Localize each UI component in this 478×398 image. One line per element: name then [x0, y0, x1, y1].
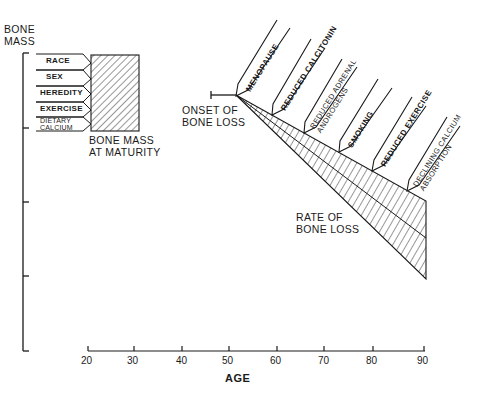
rate-label-line1: RATE OF — [296, 211, 359, 223]
factor-dietary: DIETARY — [40, 117, 73, 124]
x-tick-50: 50 — [222, 355, 233, 366]
x-tick-80: 80 — [366, 355, 377, 366]
bone-mass-at-maturity-box — [91, 55, 139, 131]
rate-of-bone-loss-label: RATE OF BONE LOSS — [296, 211, 359, 235]
x-tick-70: 70 — [318, 355, 329, 366]
rate-label-line2: BONE LOSS — [296, 223, 359, 235]
onset-label-line2: BONE LOSS — [182, 116, 245, 128]
maturity-label-line1: BONE MASS — [89, 134, 161, 146]
factor-sex: SEX — [46, 72, 63, 81]
factor-heredity: HEREDITY — [40, 88, 83, 97]
x-tick-90: 90 — [417, 355, 428, 366]
factor-dietary-calcium: DIETARY CALCIUM — [40, 117, 73, 131]
x-axis — [88, 346, 425, 351]
onset-label-line1: ONSET OF — [182, 104, 245, 116]
x-tick-20: 20 — [81, 355, 92, 366]
x-tick-30: 30 — [127, 355, 138, 366]
x-axis-label: AGE — [225, 372, 250, 384]
factor-race: RACE — [46, 56, 70, 65]
factor-calcium: CALCIUM — [40, 124, 73, 131]
y-axis-label-line1: BONE — [4, 23, 35, 35]
x-tick-40: 40 — [176, 355, 187, 366]
onset-of-bone-loss-label: ONSET OF BONE LOSS — [182, 104, 245, 128]
factor-exercise: EXERCISE — [40, 104, 83, 113]
x-tick-60: 60 — [270, 355, 281, 366]
diagram-graphics — [0, 0, 478, 398]
y-axis-label: BONE MASS — [4, 23, 35, 47]
y-axis-label-line2: MASS — [4, 35, 35, 47]
bone-loss-wedge — [236, 95, 426, 279]
maturity-label-line2: AT MATURITY — [89, 146, 161, 158]
y-axis — [23, 53, 29, 351]
onset-marker — [211, 91, 236, 99]
bone-mass-at-maturity-label: BONE MASS AT MATURITY — [89, 134, 161, 158]
